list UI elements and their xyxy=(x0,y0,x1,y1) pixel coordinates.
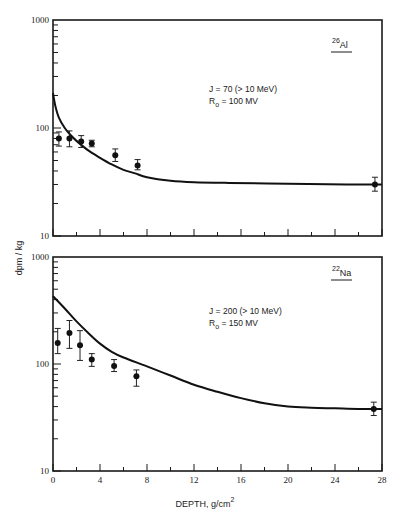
al26-panel: 10001001026AlJ = 70 (> 10 MeV)Ro = 100 M… xyxy=(31,15,382,241)
isotope-label: 22Na xyxy=(332,265,351,278)
data-marker xyxy=(135,162,141,168)
x-tick-label: 20 xyxy=(284,475,294,485)
x-axis-label-text: DEPTH, g/cm xyxy=(176,499,231,509)
x-tick-label: 28 xyxy=(378,475,388,485)
y-tick-label: 1000 xyxy=(31,15,50,25)
y-axis-label: dpm / kg xyxy=(14,241,24,276)
isotope-symbol: Na xyxy=(340,268,352,278)
data-marker xyxy=(55,340,61,346)
data-point xyxy=(133,370,139,386)
plot-frame xyxy=(53,257,382,471)
param-r0: Ro = 150 MV xyxy=(209,318,258,330)
data-point xyxy=(372,177,378,191)
data-marker xyxy=(66,135,72,141)
depth-profile-chart: 10001001026AlJ = 70 (> 10 MeV)Ro = 100 M… xyxy=(0,0,400,520)
x-tick-label: 16 xyxy=(237,475,247,485)
param-j: J = 200 (> 10 MeV) xyxy=(209,306,282,316)
data-marker xyxy=(112,152,118,158)
data-point xyxy=(89,140,95,147)
data-point xyxy=(56,132,62,146)
data-marker xyxy=(89,357,95,363)
data-point xyxy=(371,402,377,415)
isotope-mass: 22 xyxy=(332,265,340,272)
isotope-symbol: Al xyxy=(340,40,348,50)
data-point xyxy=(66,321,72,349)
data-marker xyxy=(78,138,84,144)
data-marker xyxy=(372,181,378,187)
data-point xyxy=(77,331,83,361)
y-tick-label: 10 xyxy=(40,466,50,476)
x-tick-label: 24 xyxy=(331,475,341,485)
data-point xyxy=(89,354,95,367)
data-marker xyxy=(56,135,62,141)
data-marker xyxy=(371,406,377,412)
data-point xyxy=(135,160,141,170)
data-marker xyxy=(111,363,117,369)
y-tick-label: 100 xyxy=(36,123,50,133)
x-tick-label: 12 xyxy=(190,475,199,485)
x-axis-label-sup: 2 xyxy=(231,496,235,503)
data-point xyxy=(66,131,72,147)
x-tick-label: 4 xyxy=(98,475,103,485)
isotope-mass: 26 xyxy=(332,37,340,44)
isotope-label: 26Al xyxy=(332,37,348,50)
param-r0: Ro = 100 MV xyxy=(209,96,258,108)
data-marker xyxy=(66,330,72,336)
data-marker xyxy=(77,342,83,348)
x-tick-label: 8 xyxy=(145,475,150,485)
x-tick-label: 0 xyxy=(51,475,56,485)
data-marker xyxy=(133,373,139,379)
y-tick-label: 100 xyxy=(36,359,50,369)
y-tick-label: 1000 xyxy=(31,252,50,262)
data-point xyxy=(112,149,118,162)
y-tick-label: 10 xyxy=(40,231,50,241)
na22-panel: 100010010048121620242822NaJ = 200 (> 10 … xyxy=(31,252,387,485)
x-axis-label: DEPTH, g/cm2 xyxy=(176,496,235,509)
data-marker xyxy=(89,140,95,146)
data-point xyxy=(111,360,117,372)
param-j: J = 70 (> 10 MeV) xyxy=(209,84,277,94)
